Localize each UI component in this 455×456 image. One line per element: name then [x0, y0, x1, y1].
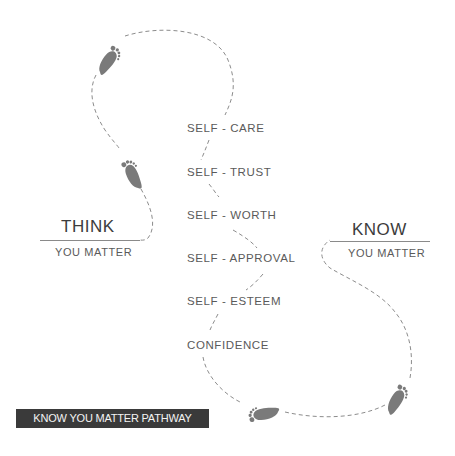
footprint-icon: [95, 45, 124, 79]
step-self-care: SELF - CARE: [187, 122, 265, 134]
think-title: THINK: [61, 217, 115, 237]
know-title: KNOW: [352, 220, 407, 240]
step-self-worth: SELF - WORTH: [187, 209, 276, 221]
footprint-icon: [247, 403, 280, 422]
step-self-trust: SELF - TRUST: [187, 166, 271, 178]
step-self-approval: SELF - APPROVAL: [187, 252, 296, 264]
step-self-esteem: SELF - ESTEEM: [187, 295, 281, 307]
know-divider: [330, 241, 430, 242]
think-divider: [40, 240, 140, 241]
footprint-icon: [384, 384, 412, 418]
know-subtitle: YOU MATTER: [348, 247, 425, 259]
pathway-banner: KNOW YOU MATTER PATHWAY: [16, 409, 209, 428]
footprint-icon: [121, 158, 147, 192]
step-confidence: CONFIDENCE: [187, 339, 269, 351]
think-subtitle: YOU MATTER: [55, 246, 132, 258]
